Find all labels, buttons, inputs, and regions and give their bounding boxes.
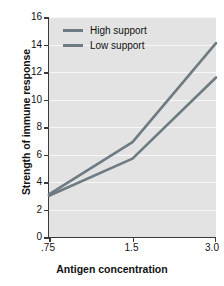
- legend-label-high-support: High support: [90, 26, 147, 36]
- y-tick-label-14: 14: [18, 40, 42, 50]
- line-high-support: [49, 43, 216, 194]
- y-tick-label-16: 16: [18, 12, 42, 22]
- legend-swatch-high-support: [63, 29, 83, 32]
- legend-item-low-support: Low support: [63, 38, 147, 53]
- x-tick-label-15: 1.5: [112, 243, 152, 253]
- y-tick-label-6: 6: [18, 150, 42, 160]
- x-axis-title: Antigen concentration: [0, 263, 224, 275]
- plot-area: High support Low support: [48, 17, 216, 238]
- x-tick-label-30: 3.0: [192, 243, 224, 253]
- x-tick-label-075: .75: [28, 243, 68, 253]
- y-tick-label-4: 4: [18, 177, 42, 187]
- legend-label-low-support: Low support: [90, 41, 144, 51]
- y-tick-label-12: 12: [18, 67, 42, 77]
- y-tick-label-8: 8: [18, 122, 42, 132]
- chart-figure: Strength of immune response 16 14 12 10 …: [0, 0, 224, 286]
- y-tick-label-10: 10: [18, 95, 42, 105]
- y-tick-label-2: 2: [18, 205, 42, 215]
- legend-item-high-support: High support: [63, 23, 147, 38]
- chart-legend: High support Low support: [63, 23, 147, 53]
- legend-swatch-low-support: [63, 44, 83, 47]
- y-tick-label-0: 0: [18, 232, 42, 242]
